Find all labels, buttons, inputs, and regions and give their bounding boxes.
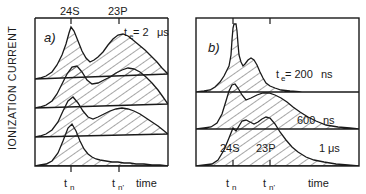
- panel-a-bottom-ticks: [71, 166, 119, 172]
- svg-text:n: n: [232, 183, 236, 192]
- panel-a-x-axis-label: time: [136, 177, 157, 189]
- panel-b-xtick-tn: t n: [226, 177, 236, 192]
- panel-a-letter: a): [44, 30, 56, 45]
- svg-text:t: t: [263, 177, 266, 189]
- svg-text:t: t: [276, 68, 279, 80]
- panel-a: IONIZATION CURRENT 24S 23P a) t e = 2 μs: [0, 0, 186, 194]
- figure-root: IONIZATION CURRENT 24S 23P a) t e = 2 μs: [0, 0, 366, 194]
- peak-label-24s: 24S: [60, 5, 80, 17]
- panel-b-top-ticks: [233, 18, 270, 24]
- svg-text:ns: ns: [321, 68, 333, 80]
- svg-text:μs: μs: [157, 26, 169, 38]
- svg-text:IONIZATION CURRENT: IONIZATION CURRENT: [6, 26, 18, 150]
- panel-a-xtick-tn: t n: [64, 177, 74, 192]
- y-axis-label: IONIZATION CURRENT: [6, 26, 18, 150]
- svg-text:t: t: [226, 177, 229, 189]
- svg-text:n': n': [118, 183, 124, 192]
- svg-text:= 2: = 2: [133, 26, 149, 38]
- svg-text:n': n': [269, 183, 275, 192]
- panel-a-xtick-tnp: t n': [112, 177, 124, 192]
- panel-b: b) t e = 200 ns 600 ns: [180, 0, 366, 194]
- panel-b-peak-label-23p: 23P: [256, 142, 276, 154]
- svg-text:ns: ns: [323, 114, 335, 126]
- panel-b-peak-label-24s: 24S: [220, 142, 240, 154]
- svg-text:n: n: [70, 183, 74, 192]
- panel-b-letter: b): [208, 40, 220, 55]
- panel-a-top-ticks: [71, 18, 119, 24]
- panel-b-x-axis-label: time: [308, 177, 329, 189]
- panel-b-xtick-tnp: t n': [263, 177, 275, 192]
- panel-b-trace-1: [196, 24, 359, 92]
- svg-text:μs: μs: [328, 142, 340, 154]
- svg-text:1: 1: [319, 142, 325, 154]
- svg-text:600: 600: [297, 114, 315, 126]
- svg-text:= 200: = 200: [285, 68, 313, 80]
- svg-text:t: t: [112, 177, 115, 189]
- panel-b-trace-label-200ns: t e = 200 ns: [276, 68, 333, 83]
- panel-b-trace-label-1us: 1 μs: [319, 142, 340, 154]
- svg-text:t: t: [64, 177, 67, 189]
- peak-label-23p: 23P: [108, 5, 128, 17]
